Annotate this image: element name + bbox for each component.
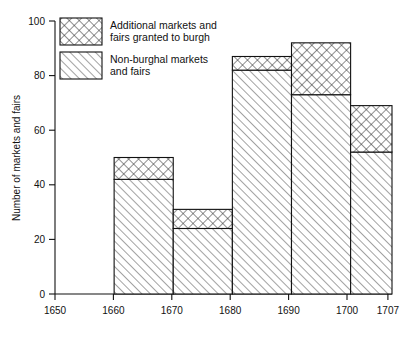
- bar-segment: [351, 106, 392, 152]
- legend-swatch-diagonal-hatch: [60, 52, 102, 79]
- legend-swatch-cross-hatch: [60, 18, 102, 45]
- bar-segment: [114, 179, 173, 294]
- x-tick-label-1690: 1690: [277, 305, 300, 316]
- x-tick-label-1670: 1670: [161, 305, 184, 316]
- y-tick-label-20: 20: [34, 234, 46, 245]
- bar-segment: [173, 209, 232, 228]
- bar-segment: [291, 43, 350, 95]
- bar-segment: [114, 158, 173, 180]
- bar-chart: 0 20 40 60 80 100 Number of markets and …: [0, 0, 409, 338]
- x-tick-label-1680: 1680: [219, 305, 242, 316]
- legend-label-additional-line1: Additional markets and: [110, 19, 217, 31]
- y-tick-label-0: 0: [39, 289, 45, 300]
- y-tick-label-80: 80: [34, 70, 46, 81]
- chart-canvas: 0 20 40 60 80 100 Number of markets and …: [0, 0, 409, 338]
- x-tick-label-1700: 1700: [336, 305, 359, 316]
- y-axis-title: Number of markets and fairs: [11, 95, 22, 221]
- legend-label-nonburghal-line1: Non-burghal markets: [110, 53, 208, 65]
- x-tick-label-1660: 1660: [102, 305, 125, 316]
- bar-segment: [173, 228, 232, 294]
- legend-label-nonburghal-line2: and fairs: [110, 65, 150, 77]
- bar-segment: [232, 56, 291, 70]
- y-tick-label-60: 60: [34, 125, 46, 136]
- y-tick-label-40: 40: [34, 179, 46, 190]
- legend-label-additional-line2: fairs granted to burgh: [110, 31, 210, 43]
- bar-segment: [232, 70, 291, 294]
- bar-segment: [291, 95, 350, 294]
- x-tick-label-1650: 1650: [44, 305, 67, 316]
- y-tick-label-100: 100: [28, 16, 45, 27]
- bar-segment: [351, 152, 392, 294]
- x-tick-label-1707: 1707: [377, 305, 400, 316]
